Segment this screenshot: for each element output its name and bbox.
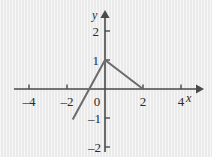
x-tick-label--2: –2 bbox=[61, 95, 74, 108]
x-tick-label-2: 2 bbox=[140, 95, 147, 108]
graph-figure: –4 –2 0 2 4 2 1 –1 –2 x y bbox=[0, 0, 212, 157]
y-tick-label-1: 1 bbox=[93, 54, 100, 67]
y-axis-label: y bbox=[92, 9, 97, 21]
x-tick-label--4: –4 bbox=[23, 95, 36, 108]
y-tick-label-2: 2 bbox=[93, 25, 100, 38]
x-tick-label-4: 4 bbox=[178, 95, 185, 108]
y-tick-label--1: –1 bbox=[88, 112, 101, 125]
coordinate-plane bbox=[0, 0, 212, 157]
origin-label: 0 bbox=[94, 95, 101, 108]
y-tick-label--2: –2 bbox=[88, 141, 101, 154]
y-axis-arrow-icon bbox=[100, 10, 109, 18]
x-axis-label: x bbox=[186, 92, 191, 104]
x-axis-arrow-icon bbox=[196, 84, 204, 93]
